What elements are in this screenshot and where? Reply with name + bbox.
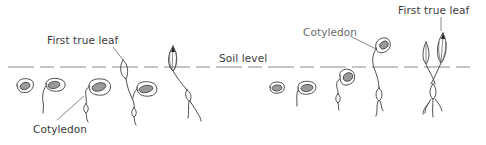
right-stage-2-seed-radicle: [297, 81, 316, 106]
right-stage-4-cotyledon-emerged: [373, 38, 391, 116]
left-stage-4-emerging: [121, 60, 157, 125]
right-stage-5-seedling: [423, 33, 446, 117]
right-stage-1-seed: [270, 82, 284, 93]
left-stage-1-seed: [17, 79, 33, 93]
left-stage-2-seed-radicle: [43, 78, 66, 113]
left-cotyledon-leader: [57, 96, 84, 120]
label-first-true-leaf-right: First true leaf: [398, 5, 469, 16]
left-stage-5-seedling: [169, 46, 202, 121]
label-cotyledon-right: Cotyledon: [303, 27, 357, 38]
left-stage-3-germinating: [84, 79, 111, 122]
left-first-true-leaf-leader: [113, 47, 123, 60]
label-cotyledon-left: Cotyledon: [33, 124, 87, 135]
label-first-true-leaf-left: First true leaf: [47, 35, 118, 46]
germination-diagram: First true leaf Cotyledon Soil level Cot…: [0, 0, 486, 145]
right-stage-3-germinating: [336, 69, 355, 110]
label-soil-level: Soil level: [219, 53, 267, 64]
